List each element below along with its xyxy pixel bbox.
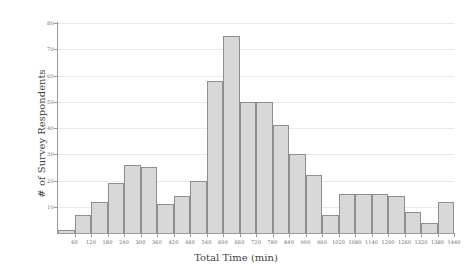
- y-tick-label-20: 20: [47, 178, 54, 184]
- x-tick-mark-540: [207, 234, 208, 237]
- x-tick-label-120: 120: [86, 239, 96, 245]
- x-tick-mark-720: [256, 234, 257, 237]
- y-tick-label-10: 10: [47, 204, 54, 210]
- x-tick-label-360: 360: [152, 239, 162, 245]
- bar-900-960: [306, 175, 323, 233]
- y-axis-ticks: 1020304050607080: [0, 0, 54, 256]
- bar-300-360: [141, 167, 158, 233]
- x-tick-label-1140: 1140: [365, 239, 378, 245]
- x-tick-label-660: 660: [235, 239, 245, 245]
- bar-120-180: [91, 202, 108, 234]
- bar-1140-1200: [372, 194, 389, 233]
- x-tick-label-600: 600: [218, 239, 228, 245]
- bar-960-1020: [322, 215, 339, 233]
- bar-1320-1380: [421, 223, 438, 234]
- y-tick-label-40: 40: [47, 125, 54, 131]
- bar-1080-1140: [355, 194, 372, 233]
- x-tick-mark-1020: [339, 234, 340, 237]
- x-tick-mark-60: [75, 234, 76, 237]
- bar-240-300: [124, 165, 141, 233]
- y-tick-label-30: 30: [47, 151, 54, 157]
- bar-180-240: [108, 183, 125, 233]
- bar-540-600: [207, 81, 224, 233]
- x-tick-mark-840: [289, 234, 290, 237]
- x-tick-label-1200: 1200: [381, 239, 394, 245]
- x-tick-mark-420: [174, 234, 175, 237]
- x-tick-mark-1260: [405, 234, 406, 237]
- x-tick-mark-1140: [372, 234, 373, 237]
- x-tick-mark-240: [124, 234, 125, 237]
- x-axis-ticks: 6012018024030036042048054060066072078084…: [58, 234, 454, 250]
- x-tick-mark-600: [223, 234, 224, 237]
- y-tick-label-70: 70: [47, 46, 54, 52]
- bar-660-720: [240, 102, 257, 233]
- x-tick-mark-180: [108, 234, 109, 237]
- x-tick-mark-360: [157, 234, 158, 237]
- y-tick-label-60: 60: [47, 73, 54, 79]
- bar-1260-1320: [405, 212, 422, 233]
- x-tick-label-1380: 1380: [431, 239, 444, 245]
- x-tick-mark-1080: [355, 234, 356, 237]
- x-tick-mark-1440: [454, 234, 455, 237]
- plot-area: [58, 23, 454, 233]
- x-tick-label-1080: 1080: [348, 239, 361, 245]
- y-tick-label-50: 50: [47, 99, 54, 105]
- x-tick-mark-780: [273, 234, 274, 237]
- bar-series: [58, 23, 454, 233]
- x-tick-label-960: 960: [317, 239, 327, 245]
- x-axis-label: Total Time (min): [0, 252, 472, 263]
- bar-1200-1260: [388, 196, 405, 233]
- bar-360-420: [157, 204, 174, 233]
- x-tick-mark-120: [91, 234, 92, 237]
- x-tick-label-240: 240: [119, 239, 129, 245]
- bar-720-780: [256, 102, 273, 233]
- x-tick-label-420: 420: [169, 239, 179, 245]
- bar-600-660: [223, 36, 240, 233]
- x-tick-label-300: 300: [136, 239, 146, 245]
- x-tick-mark-300: [141, 234, 142, 237]
- bar-1380-1440: [438, 202, 455, 234]
- x-tick-mark-1320: [421, 234, 422, 237]
- x-tick-label-720: 720: [251, 239, 261, 245]
- x-tick-mark-660: [240, 234, 241, 237]
- bar-0-60: [58, 230, 75, 233]
- x-tick-label-1320: 1320: [414, 239, 427, 245]
- bar-480-540: [190, 181, 207, 234]
- x-tick-label-60: 60: [71, 239, 78, 245]
- x-tick-mark-1380: [438, 234, 439, 237]
- x-tick-label-900: 900: [301, 239, 311, 245]
- histogram-chart: # of Survey Respondents 1020304050607080…: [0, 0, 472, 272]
- x-tick-mark-900: [306, 234, 307, 237]
- x-tick-mark-1200: [388, 234, 389, 237]
- bar-840-900: [289, 154, 306, 233]
- x-tick-mark-960: [322, 234, 323, 237]
- x-tick-label-540: 540: [202, 239, 212, 245]
- x-tick-label-1020: 1020: [332, 239, 345, 245]
- y-tick-label-80: 80: [47, 20, 54, 26]
- bar-420-480: [174, 196, 191, 233]
- x-tick-label-480: 480: [185, 239, 195, 245]
- x-tick-label-780: 780: [268, 239, 278, 245]
- bar-1020-1080: [339, 194, 356, 233]
- x-tick-label-1260: 1260: [398, 239, 411, 245]
- bar-780-840: [273, 125, 290, 233]
- x-tick-label-840: 840: [284, 239, 294, 245]
- bar-60-120: [75, 215, 92, 233]
- x-tick-label-180: 180: [103, 239, 113, 245]
- x-tick-label-1440: 1440: [447, 239, 460, 245]
- x-tick-mark-480: [190, 234, 191, 237]
